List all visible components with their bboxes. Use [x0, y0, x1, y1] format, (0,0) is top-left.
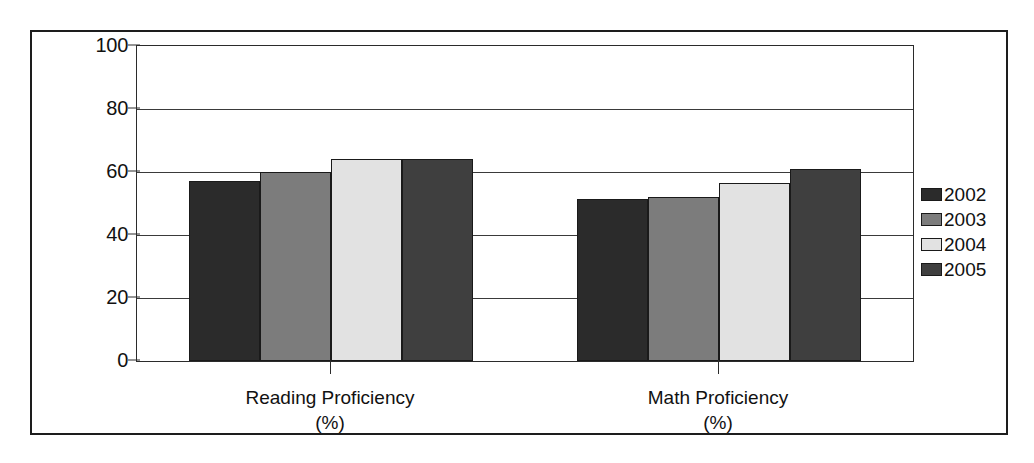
category-label-unit: (%) — [136, 410, 524, 435]
chart-legend: 2002200320042005 — [921, 182, 1001, 282]
legend-label: 2004 — [944, 235, 986, 254]
legend-item-2005: 2005 — [921, 257, 1001, 282]
y-axis-tick-mark — [128, 45, 140, 46]
y-axis-tick-mark — [128, 234, 140, 235]
y-axis-tick-mark — [128, 171, 140, 172]
bar-2005-math-proficiency — [790, 169, 861, 361]
category-label-unit: (%) — [524, 410, 912, 435]
legend-swatch-icon — [921, 213, 942, 226]
plot-area — [136, 45, 914, 362]
legend-swatch-icon — [921, 188, 942, 201]
y-axis-tick-label: 60 — [106, 161, 128, 181]
bar-2004-math-proficiency — [719, 183, 790, 361]
gridline — [137, 109, 913, 110]
y-axis-tick-mark — [128, 108, 140, 109]
y-axis-tick-label: 80 — [106, 98, 128, 118]
y-axis-tick-label: 0 — [117, 350, 128, 370]
y-axis-tick-label: 100 — [96, 35, 128, 55]
category-label-name: Math Proficiency — [648, 387, 788, 408]
legend-swatch-icon — [921, 238, 942, 251]
category-label-name: Reading Proficiency — [246, 387, 415, 408]
y-axis-tick-label: 40 — [106, 224, 128, 244]
bar-2003-reading-proficiency — [260, 172, 331, 361]
legend-swatch-icon — [921, 263, 942, 276]
y-axis-tick-mark — [128, 297, 140, 298]
legend-label: 2005 — [944, 260, 986, 279]
legend-label: 2002 — [944, 185, 986, 204]
category-tick-mark — [718, 360, 719, 374]
category-label: Reading Proficiency(%) — [136, 385, 524, 435]
bar-2005-reading-proficiency — [402, 159, 473, 361]
y-axis-tick-mark — [128, 360, 140, 361]
legend-label: 2003 — [944, 210, 986, 229]
y-axis: 100806040200 — [52, 45, 128, 360]
bar-2003-math-proficiency — [648, 197, 719, 361]
category-label: Math Proficiency(%) — [524, 385, 912, 435]
bar-2002-reading-proficiency — [189, 181, 260, 361]
legend-item-2004: 2004 — [921, 232, 1001, 257]
category-tick-mark — [330, 360, 331, 374]
legend-item-2002: 2002 — [921, 182, 1001, 207]
y-axis-tick-label: 20 — [106, 287, 128, 307]
chart-figure: 100806040200 2002200320042005 Reading Pr… — [30, 30, 1008, 435]
bar-2002-math-proficiency — [577, 199, 648, 361]
legend-item-2003: 2003 — [921, 207, 1001, 232]
bar-2004-reading-proficiency — [331, 159, 402, 361]
